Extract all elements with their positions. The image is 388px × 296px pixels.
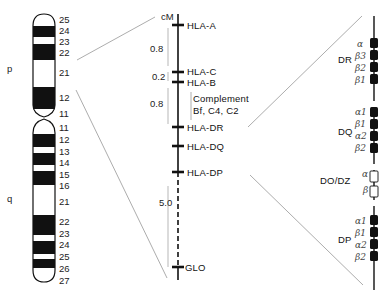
gene-block-open <box>370 186 378 197</box>
band-label: 12 <box>59 92 70 103</box>
region-dq: DQ α1 β1 α2 β2 <box>338 107 378 153</box>
p-band-labels: 25 24 23 22 21 12 11 <box>59 14 70 119</box>
connector-bottom <box>76 90 167 278</box>
gene-label: β <box>362 185 368 195</box>
gene-block <box>370 38 378 48</box>
gene-block <box>370 62 378 72</box>
band-label: 21 <box>59 67 70 78</box>
genetic-map: cM HLA-A HLA-C HLA-B HLA-DR HLA-DQ <box>150 11 249 280</box>
band-label: 27 <box>59 275 70 286</box>
class2-detail: DR α β3 β2 β1 DQ α1 β1 α2 β2 DO/DZ α β <box>320 16 378 290</box>
zoom-connector-lines <box>76 17 167 278</box>
distance-b-dr: 0.8 <box>150 98 163 109</box>
distance-c-b: 0.2 <box>152 71 165 82</box>
band-label: 13 <box>59 146 70 157</box>
band-label: 25 <box>59 14 70 25</box>
band-label: 11 <box>59 122 69 133</box>
gene-label: α <box>357 39 363 49</box>
gene-block <box>370 239 378 249</box>
region-do-dz: DO/DZ α β <box>320 169 378 197</box>
gene-block <box>370 215 378 225</box>
band-label: 12 <box>59 134 70 145</box>
gene-label: β1 <box>354 75 366 85</box>
complement-genes-label: Bf, C4, C2 <box>193 105 239 116</box>
band-label: 26 <box>59 263 70 274</box>
connector-class2-top <box>248 16 362 127</box>
region-label-do-dz: DO/DZ <box>320 175 351 186</box>
band-p24 <box>33 26 55 37</box>
band-q14 <box>33 153 55 165</box>
band-label: 23 <box>59 36 70 47</box>
band-q26 <box>33 259 55 268</box>
band-label: 25 <box>59 251 70 262</box>
region-label-dq: DQ <box>338 126 353 137</box>
gene-label: α2 <box>355 240 367 250</box>
gene-label: α <box>362 169 368 179</box>
complement-label: Complement <box>193 93 249 104</box>
p-arm-label: p <box>7 63 12 74</box>
locus-hla-dp: HLA-DP <box>187 167 223 178</box>
locus-hla-b: HLA-B <box>187 77 216 88</box>
gene-label: β1 <box>354 119 366 129</box>
region-dr: DR α β3 β2 β1 <box>338 38 378 85</box>
band-q16 <box>33 171 55 185</box>
band-label: 11 <box>59 108 69 119</box>
gene-block <box>370 119 378 129</box>
band-q24 <box>33 241 55 254</box>
unit-label: cM <box>161 11 174 22</box>
gene-label: α2 <box>355 131 367 141</box>
gene-block <box>370 227 378 237</box>
gene-label: α1 <box>355 216 367 226</box>
q-arm-label: q <box>7 193 12 204</box>
band-label: 22 <box>59 216 70 227</box>
gene-label: β2 <box>354 143 366 153</box>
region-dp: DP α1 β1 α2 β2 <box>338 215 378 262</box>
locus-glo: GLO <box>185 262 206 273</box>
q-band-labels: 11 12 13 14 15 16 21 22 23 24 25 26 27 <box>59 122 70 286</box>
locus-hla-c: HLA-C <box>187 66 217 77</box>
distance-dp-glo: 5.0 <box>159 197 172 208</box>
connector-top <box>77 17 155 60</box>
band-label: 23 <box>59 228 70 239</box>
chromosome-ideogram: p q 25 24 23 22 21 12 11 11 12 13 14 15 … <box>7 14 70 286</box>
distance-a-c: 0.8 <box>150 43 163 54</box>
gene-block-open <box>370 171 378 182</box>
locus-hla-dr: HLA-DR <box>187 122 224 133</box>
band-label: 24 <box>59 239 70 250</box>
band-p12 <box>33 87 55 109</box>
region-label-dr: DR <box>338 54 352 65</box>
hla-region-diagram: p q 25 24 23 22 21 12 11 11 12 13 14 15 … <box>0 0 388 296</box>
gene-label: α1 <box>355 107 367 117</box>
band-label: 24 <box>59 25 70 36</box>
gene-label: β2 <box>354 63 366 73</box>
gene-block <box>370 50 378 60</box>
connector-class2-bottom <box>250 175 363 285</box>
band-label: 16 <box>59 180 70 191</box>
region-label-dp: DP <box>338 234 352 245</box>
band-p22 <box>33 44 55 60</box>
band-label: 15 <box>59 169 70 180</box>
gene-block <box>370 143 378 153</box>
gene-label: β3 <box>354 51 366 61</box>
gene-block <box>370 251 378 261</box>
gene-label: β2 <box>354 252 366 262</box>
locus-hla-dq: HLA-DQ <box>187 141 224 152</box>
band-label: 14 <box>59 157 70 168</box>
gene-block <box>370 131 378 141</box>
gene-block <box>370 74 378 84</box>
locus-hla-a: HLA-A <box>187 20 216 31</box>
gene-block <box>370 107 378 117</box>
gene-label: β1 <box>354 228 366 238</box>
band-label: 22 <box>59 47 70 58</box>
band-q12 <box>33 134 55 147</box>
band-label: 21 <box>59 196 70 207</box>
band-q22 <box>33 215 55 235</box>
